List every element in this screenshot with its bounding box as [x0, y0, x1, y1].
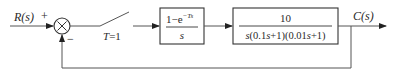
plus-sign: +: [41, 9, 48, 23]
plant-denominator: s(0.1s+1)(0.01s+1): [245, 30, 326, 42]
input-label: R(s): [13, 10, 34, 24]
plant-block: 10 s(0.1s+1)(0.01s+1): [233, 8, 338, 44]
minus-sign: −: [67, 32, 74, 46]
plant-numerator: 10: [280, 12, 292, 24]
zoh-block: 1−e−Ts s: [160, 8, 204, 44]
block-diagram: R(s) + − T=1 1−e−Ts s 10 s(0.1s+1)(0.01s…: [0, 0, 397, 76]
zoh-denominator: s: [180, 29, 184, 41]
sampler-label: T=1: [103, 30, 121, 42]
output-label: C(s): [353, 9, 374, 23]
sampler-switch: [100, 12, 129, 26]
